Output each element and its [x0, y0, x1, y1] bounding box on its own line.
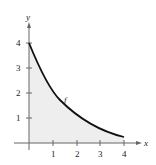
x-tick-label-3: 3	[98, 149, 103, 159]
y-tick-label-4: 4	[16, 38, 21, 48]
y-axis-label: y	[25, 12, 30, 22]
x-tick-label-1: 1	[51, 149, 56, 159]
area-under-curve	[29, 43, 124, 143]
x-tick-label-4: 4	[122, 149, 127, 159]
x-tick-label-2: 2	[75, 149, 80, 159]
chart: 4 3 2 1 1 2 3 4 y x f	[0, 0, 156, 165]
y-tick-label-3: 3	[16, 63, 21, 73]
y-tick-label-2: 2	[16, 88, 21, 98]
x-axis-arrow-icon	[136, 141, 142, 145]
y-axis-arrow-icon	[27, 22, 31, 28]
x-axis-label: x	[143, 138, 148, 148]
y-tick-label-1: 1	[16, 113, 21, 123]
curve-label-f: f	[64, 95, 68, 105]
